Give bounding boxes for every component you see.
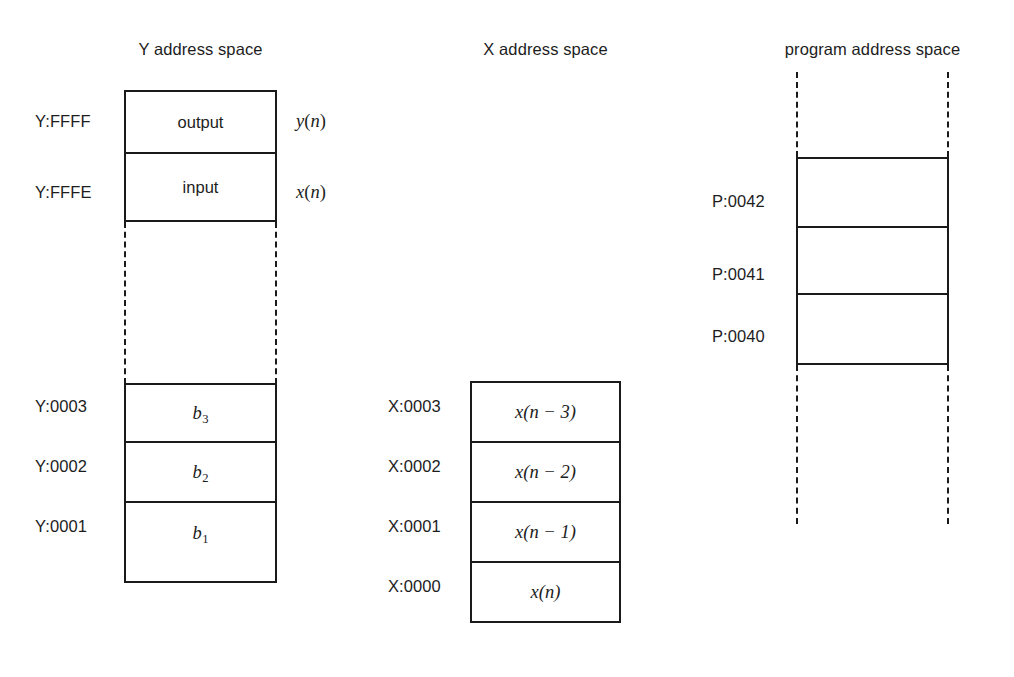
p-space-bottom-gap-rail-left <box>796 365 798 524</box>
memory-cell-x-0000: x(n) <box>470 563 621 623</box>
memory-cell-p-0042 <box>796 157 949 228</box>
address-label-x-0001: X:0001 <box>388 517 441 536</box>
memory-cell-y-0003: b3 <box>124 383 277 443</box>
memory-cell-p-0040 <box>796 295 949 365</box>
address-label-p-0041: P:0041 <box>712 265 765 284</box>
y-address-space-heading: Y address space <box>124 40 277 59</box>
memory-cell-x-0003: x(n − 3) <box>470 381 621 443</box>
address-label-y-0001: Y:0001 <box>35 517 87 536</box>
memory-cell-y-0002: b2 <box>124 443 277 503</box>
address-label-y-fffe: Y:FFFE <box>35 183 92 202</box>
memory-cell-y-fffe-value: input <box>183 178 219 197</box>
address-label-x-0000: X:0000 <box>388 577 441 596</box>
memory-cell-y-0001-value: b1 <box>192 523 208 544</box>
memory-cell-p-0041 <box>796 228 949 295</box>
x-address-space-heading: X address space <box>470 40 621 59</box>
address-label-x-0003: X:0003 <box>388 397 441 416</box>
address-label-y-ffff: Y:FFFF <box>35 112 91 131</box>
address-label-y-0003: Y:0003 <box>35 397 87 416</box>
memory-cell-y-ffff-value: output <box>178 113 224 132</box>
memory-cell-x-0002-value: x(n − 2) <box>515 462 576 483</box>
address-label-p-0040: P:0040 <box>712 327 765 346</box>
memory-cell-y-fffe: input <box>124 154 277 222</box>
memory-cell-x-0001: x(n − 1) <box>470 503 621 563</box>
memory-cell-x-0002: x(n − 2) <box>470 443 621 503</box>
y-space-gap-rail-left <box>124 222 126 384</box>
p-space-top-gap-rail-left <box>796 72 798 157</box>
address-label-x-0002: X:0002 <box>388 457 441 476</box>
diagram-canvas: Y address space Y:FFFF output y(n) Y:FFF… <box>0 0 1014 677</box>
memory-cell-y-0002-value: b2 <box>192 462 208 483</box>
memory-cell-x-0003-value: x(n − 3) <box>515 402 576 423</box>
y-space-gap-rail-right <box>275 222 277 384</box>
memory-cell-y-0001: b1 <box>124 503 277 583</box>
annotation-input-signal: x(n) <box>296 182 326 203</box>
p-space-bottom-gap-rail-right <box>947 365 949 524</box>
memory-cell-x-0000-value: x(n) <box>531 582 561 603</box>
memory-cell-x-0001-value: x(n − 1) <box>515 522 576 543</box>
address-label-p-0042: P:0042 <box>712 192 765 211</box>
program-address-space-heading: program address space <box>760 40 985 59</box>
address-label-y-0002: Y:0002 <box>35 457 87 476</box>
annotation-output-signal: y(n) <box>296 111 326 132</box>
memory-cell-y-ffff: output <box>124 90 277 154</box>
p-space-top-gap-rail-right <box>947 72 949 157</box>
memory-cell-y-0003-value: b3 <box>192 403 208 424</box>
